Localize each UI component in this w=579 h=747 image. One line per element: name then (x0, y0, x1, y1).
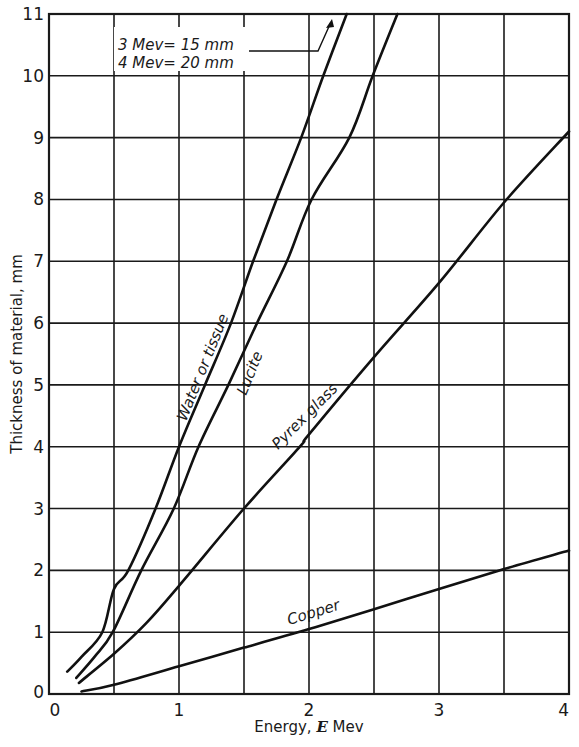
arrow-head-icon (326, 19, 334, 28)
x-tick-label: 3 (434, 700, 445, 720)
x-axis-title-prefix: Energy, (254, 718, 316, 736)
y-tick-label: 4 (33, 437, 44, 457)
y-tick-label: 8 (33, 189, 44, 209)
y-tick-label: 5 (33, 375, 44, 395)
y-tick-label: 9 (33, 128, 44, 148)
y-tick-label: 0 (33, 682, 44, 702)
curve-copper (82, 551, 570, 692)
note-4mev: 4 Mev= 20 mm (118, 54, 234, 72)
x-tick-label: 2 (304, 700, 315, 720)
x-tick-label: 0 (50, 700, 61, 720)
thickness-vs-energy-chart: 0123401234567891011 Thickness of materia… (0, 0, 579, 747)
x-tick-label: 1 (174, 700, 185, 720)
y-tick-label: 1 (33, 622, 44, 642)
data-curves (67, 14, 569, 692)
note-arrow (249, 22, 331, 51)
label-copper: Copper (285, 596, 343, 629)
label-water-or-tissue: Water or tissue (173, 311, 232, 423)
x-tick-label: 4 (558, 700, 569, 720)
label-lucite: Lucite (233, 349, 267, 398)
y-tick-label: 3 (33, 499, 44, 519)
x-axis-title: Energy, E Mev (254, 718, 363, 736)
y-axis-title: Thickness of material, mm (8, 254, 26, 455)
y-tick-label: 11 (22, 4, 44, 24)
y-tick-label: 2 (33, 560, 44, 580)
note-3mev: 3 Mev= 15 mm (118, 36, 234, 54)
y-tick-label: 6 (33, 313, 44, 333)
y-tick-label: 10 (22, 66, 44, 86)
x-axis-title-suffix: Mev (328, 718, 364, 736)
y-tick-label: 7 (33, 251, 44, 271)
x-axis-energy-symbol: E (315, 718, 328, 736)
